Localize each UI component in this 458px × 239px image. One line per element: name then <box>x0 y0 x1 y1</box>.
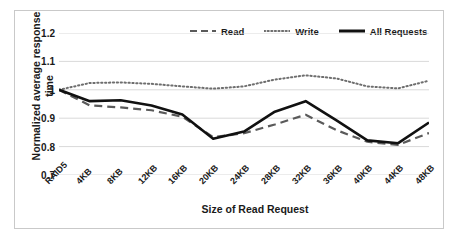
series-line-write <box>59 75 429 89</box>
plot-area: 0.70.80.911.11.2 RAID54KB8KB12KB16KB20KB… <box>59 33 429 175</box>
y-axis-tick-label: 1.1 <box>41 56 55 67</box>
y-axis-tick-label: 1.2 <box>41 28 55 39</box>
y-axis-tick-label: 1 <box>49 84 55 95</box>
chart-figure: Normalized average response time Read Wr… <box>14 10 444 229</box>
series-line-read <box>59 90 429 145</box>
plot-svg <box>59 33 429 175</box>
x-axis-title: Size of Read Request <box>75 203 435 215</box>
series-line-all-requests <box>59 90 429 143</box>
y-axis-tick-label: 0.8 <box>41 141 55 152</box>
y-axis-tick-label: 0.9 <box>41 113 55 124</box>
